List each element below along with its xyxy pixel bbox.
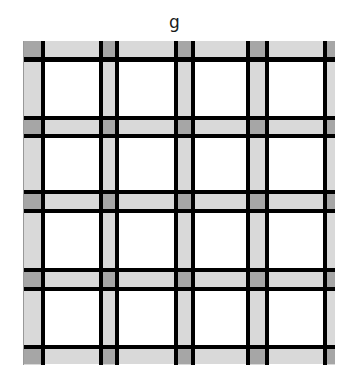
band-intersection — [24, 120, 41, 134]
band-intersection — [103, 194, 115, 209]
figure-title: g — [0, 12, 339, 32]
band-intersection — [178, 41, 191, 57]
band-intersection — [24, 349, 41, 364]
band-intersection — [103, 349, 115, 364]
vertical-line — [191, 41, 195, 365]
band-intersection — [327, 194, 335, 209]
band-intersection — [327, 120, 335, 134]
band-intersection — [103, 41, 115, 57]
horizontal-line — [24, 190, 335, 194]
horizontal-line — [24, 134, 335, 138]
horizontal-line — [24, 287, 335, 291]
band-intersection — [24, 41, 41, 57]
horizontal-line — [24, 268, 335, 272]
band-intersection — [327, 41, 335, 57]
vertical-line — [265, 41, 269, 365]
band-intersection — [178, 349, 191, 364]
band-intersection — [250, 41, 265, 57]
vertical-line — [41, 41, 45, 365]
band-intersection — [24, 272, 41, 287]
plaid-grid-image — [23, 41, 335, 365]
band-intersection — [178, 272, 191, 287]
band-intersection — [327, 349, 335, 364]
band-intersection — [103, 120, 115, 134]
band-intersection — [250, 120, 265, 134]
band-intersection — [103, 272, 115, 287]
vertical-line — [174, 41, 178, 365]
band-intersection — [178, 194, 191, 209]
vertical-line — [323, 41, 327, 365]
horizontal-line — [24, 116, 335, 120]
band-intersection — [250, 194, 265, 209]
band-intersection — [24, 194, 41, 209]
band-intersection — [250, 349, 265, 364]
vertical-line — [246, 41, 250, 365]
horizontal-line — [24, 209, 335, 213]
horizontal-line — [24, 345, 335, 349]
vertical-line — [99, 41, 103, 365]
horizontal-line — [24, 57, 335, 62]
band-intersection — [250, 272, 265, 287]
vertical-line — [115, 41, 119, 365]
band-intersection — [178, 120, 191, 134]
band-intersection — [327, 272, 335, 287]
